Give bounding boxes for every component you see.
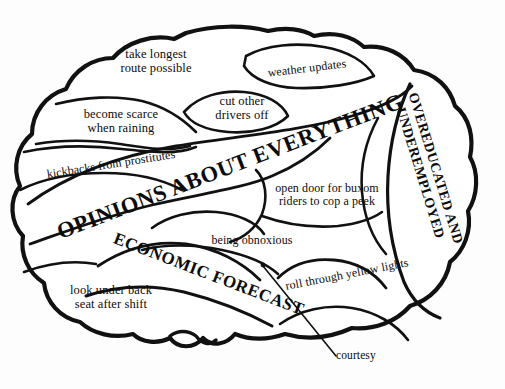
region-label-take-longest-route: take longest route possible	[96, 48, 216, 75]
callout-label-courtesy: courtesy	[336, 349, 406, 361]
region-label-open-door: open door for buxom riders to cop a peek	[262, 182, 392, 208]
region-label-cut-other-drivers: cut other drivers off	[192, 95, 292, 122]
region-label-become-scarce: become scarce when raining	[62, 108, 180, 135]
region-label-look-under-seat: look under back seat after shift	[46, 284, 176, 311]
region-label-being-obnoxious: being obnoxious	[190, 234, 314, 247]
brain-diagram: take longest route possible weather upda…	[0, 0, 505, 389]
